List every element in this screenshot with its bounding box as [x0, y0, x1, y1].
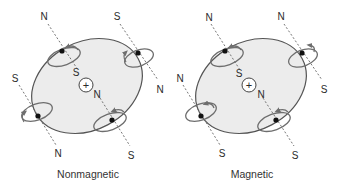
pole-label: N [277, 11, 284, 22]
electron [222, 48, 227, 53]
panel-caption: Magnetic [231, 168, 274, 180]
pole-label: N [54, 148, 61, 159]
nucleus-plus-icon: + [246, 79, 252, 91]
pole-label: S [12, 73, 19, 84]
pole-label: N [205, 12, 212, 23]
magnetism-diagram: + N S S N S N N S Nonmagnetic [0, 0, 344, 188]
panel-caption: Nonmagnetic [57, 168, 119, 180]
pole-label: S [321, 84, 328, 95]
nucleus-plus-icon: + [83, 79, 89, 91]
electron [35, 113, 40, 118]
pole-label: N [40, 11, 47, 22]
electron [135, 50, 140, 55]
electron [273, 117, 278, 122]
pole-label: S [219, 148, 226, 159]
pole-label: N [257, 89, 264, 100]
pole-label: S [73, 67, 80, 78]
panel-nonmagnetic: + N S S N S N N S Nonmagnetic [12, 11, 164, 180]
pole-label: N [93, 89, 100, 100]
pole-label: N [176, 73, 183, 84]
pole-label: S [128, 150, 135, 161]
pole-label: S [236, 68, 243, 79]
electron [198, 113, 203, 118]
electron [59, 48, 64, 53]
pole-label: N [156, 84, 163, 95]
pole-label: S [114, 11, 121, 22]
electron [109, 117, 114, 122]
electron [299, 50, 304, 55]
panel-magnetic: + N S N S N S N S Magnetic [176, 11, 327, 180]
pole-label: S [292, 150, 299, 161]
